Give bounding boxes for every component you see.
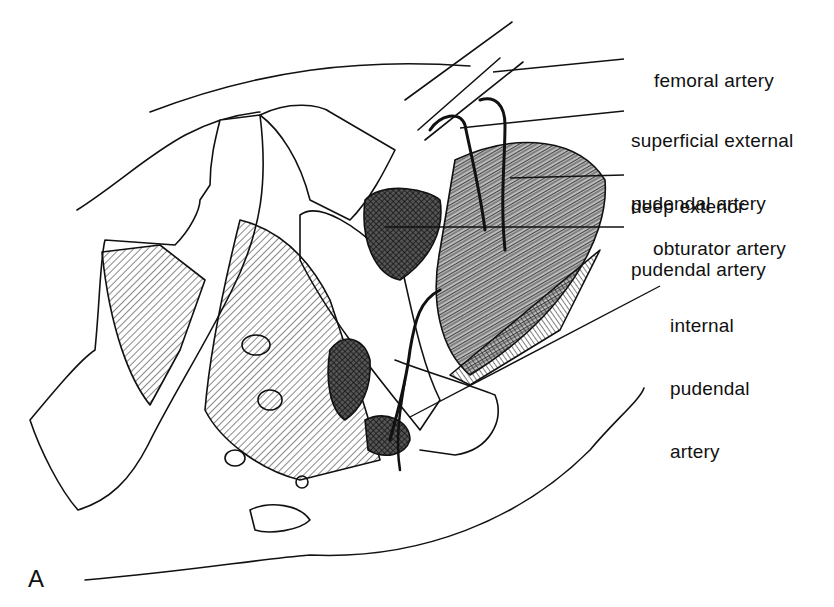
- anatomical-illustration: femoral artery superficial external pude…: [0, 0, 834, 607]
- label-internal-pudendal-artery: internal pudendal artery: [670, 273, 750, 504]
- leader-superficial-external-pudendal-artery: [460, 111, 624, 128]
- label-obturator-artery: obturator artery: [631, 217, 786, 280]
- panel-letter: A: [28, 565, 44, 593]
- leader-femoral-artery: [493, 59, 624, 72]
